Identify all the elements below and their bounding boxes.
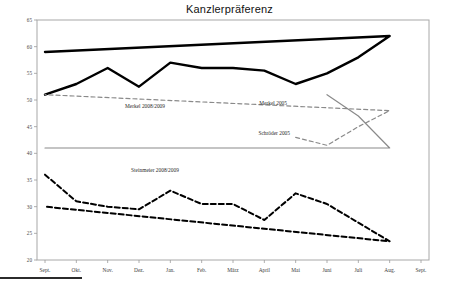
y-tick-label: 60 xyxy=(27,44,33,50)
chart-plot-area: 65605550454035302520 Sept.Okt.Nov.Dez.Ja… xyxy=(0,0,459,287)
y-tick-label: 65 xyxy=(27,17,33,23)
x-axis-ticks: Sept.Okt.Nov.Dez.Jan.Feb.MärzAprilMaiJun… xyxy=(40,260,427,273)
x-tick-label: Feb. xyxy=(197,267,206,273)
plot-frame xyxy=(37,20,429,260)
x-tick-label: Dez. xyxy=(134,267,144,273)
annotation-merkel-2005: Merkel 2005 xyxy=(259,100,287,106)
series-line xyxy=(45,175,390,242)
annotation-schroeder-2005: Schröder 2005 xyxy=(258,130,290,136)
series-layer xyxy=(45,36,390,241)
y-tick-label: 45 xyxy=(27,124,33,130)
x-tick-label: Sept. xyxy=(40,267,51,273)
y-tick-label: 35 xyxy=(27,177,33,183)
y-tick-label: 25 xyxy=(27,230,33,236)
footer-rule xyxy=(0,277,82,279)
x-tick-label: Jan. xyxy=(166,267,175,273)
x-tick-label: Juni xyxy=(323,267,332,273)
y-tick-label: 20 xyxy=(27,257,33,263)
annotation-merkel-2008-2009: Merkel 2008/2009 xyxy=(125,103,165,109)
x-tick-label: Nov. xyxy=(103,267,113,273)
x-tick-label: April xyxy=(259,267,271,273)
x-tick-label: März xyxy=(227,267,239,273)
series-line xyxy=(45,36,390,95)
x-tick-label: Juli xyxy=(354,267,362,273)
y-axis-ticks: 65605550454035302520 xyxy=(27,17,37,263)
annotation-steinmeier-2008-2009: Steinmeier 2008/2009 xyxy=(131,167,179,173)
x-tick-label: Sept. xyxy=(416,267,427,273)
y-tick-label: 40 xyxy=(27,150,33,156)
y-tick-label: 55 xyxy=(27,70,33,76)
x-tick-label: Aug. xyxy=(384,267,395,273)
x-tick-label: Okt. xyxy=(72,267,81,273)
chart-container: Kanzlerpräferenz 65605550454035302520 Se… xyxy=(0,0,459,287)
y-tick-label: 50 xyxy=(27,97,33,103)
series-annotations: Merkel 2008/2009Steinmeier 2008/2009Merk… xyxy=(125,100,290,173)
x-tick-label: Mai xyxy=(291,267,300,273)
y-tick-label: 30 xyxy=(27,204,33,210)
